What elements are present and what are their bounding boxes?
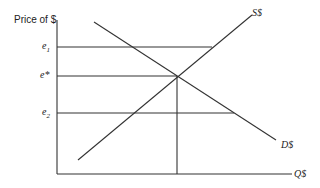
supply-label: S$ bbox=[252, 7, 262, 18]
supply-curve bbox=[78, 15, 252, 160]
e1-subscript: 1 bbox=[46, 46, 50, 54]
e1-label: e1 bbox=[42, 40, 50, 54]
e2-label: e2 bbox=[42, 106, 50, 120]
y-axis-label: Price of $ bbox=[14, 14, 56, 25]
e2-subscript: 2 bbox=[46, 112, 50, 120]
chart-canvas bbox=[0, 0, 320, 188]
quantity-label: Q$ bbox=[294, 168, 306, 179]
demand-label: D$ bbox=[281, 139, 293, 150]
estar-label: e* bbox=[40, 69, 49, 80]
demand-curve bbox=[94, 22, 276, 140]
